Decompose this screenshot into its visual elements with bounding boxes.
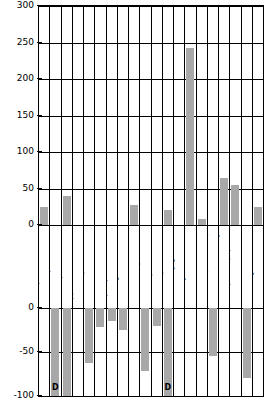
bar-positive[interactable] (40, 207, 48, 225)
category-label-band: All Categories (253, 225, 263, 308)
category-label: Transport equipment (230, 227, 231, 305)
category-label: Primary metals (185, 248, 186, 305)
y-tick-label: 150 (0, 110, 34, 119)
category-label: Instruments (242, 260, 243, 305)
bar-negative[interactable] (153, 308, 161, 326)
category-label: Electric. machinery (219, 233, 220, 305)
bar-column[interactable]: Stone-clay-glass (174, 6, 185, 396)
y-tick-label: 250 (0, 37, 34, 46)
category-label: Food products (39, 252, 40, 305)
bar-negative[interactable] (85, 308, 93, 363)
y-tick-mark (37, 351, 42, 352)
category-label-band: Electric. machinery (219, 225, 229, 308)
category-label-band: Printing (118, 225, 128, 308)
bar-column[interactable]: Leather productsD (163, 6, 174, 396)
category-label: Apparel (73, 276, 74, 305)
suppressed-data-marker: D (52, 383, 59, 392)
category-label: Tobacco products (50, 240, 51, 305)
bar-positive[interactable] (130, 205, 138, 225)
category-label: Machin. (non-elec.) (208, 233, 209, 305)
y-tick-mark (37, 151, 42, 152)
bar-column[interactable]: Printing (118, 6, 129, 396)
bar-column[interactable]: Furniture (95, 6, 106, 396)
category-label: Leather products (163, 241, 164, 305)
category-label: Lumber products (84, 241, 85, 305)
y-tick-label: 200 (0, 74, 34, 83)
bar-column[interactable]: Textile products (62, 6, 73, 396)
y-tick-mark (37, 307, 42, 308)
bar-negative[interactable] (209, 308, 217, 356)
bar-negative[interactable] (96, 308, 104, 327)
bar-column[interactable]: Chemicals (129, 6, 140, 396)
bar-column[interactable]: Fabricated metals (197, 6, 208, 396)
y-tick-label: 50 (0, 183, 34, 192)
bar-column[interactable]: Transport equipment (230, 6, 241, 396)
bar-positive[interactable] (164, 210, 172, 225)
category-label: Paper products (107, 249, 108, 305)
y-tick-mark (37, 188, 42, 189)
category-label: Chemicals (129, 266, 130, 305)
category-label: Fabricated metals (197, 238, 198, 305)
category-label-band: Tobacco products (50, 225, 60, 308)
category-label: Textile products (62, 246, 63, 305)
bar-positive[interactable] (63, 196, 71, 225)
y-tick-mark (37, 224, 42, 225)
bar-column[interactable]: Rubber-plastic (152, 6, 163, 396)
category-label-band: Machin. (non-elec.) (208, 225, 218, 308)
y-tick-mark (37, 42, 42, 43)
y-tick-mark (37, 5, 42, 6)
y-tick-label: -100 (0, 391, 34, 400)
y-tick-label: 0 (0, 303, 34, 312)
bar-positive[interactable] (220, 178, 228, 225)
category-label: Printing (118, 276, 119, 305)
category-label: Petro-coal products (140, 232, 141, 305)
bar-positive[interactable] (254, 207, 262, 225)
category-label-band: Transport equipment (230, 225, 240, 308)
bar-column[interactable]: Apparel (73, 6, 84, 396)
category-label: Furniture (95, 271, 96, 305)
bar-column[interactable]: Tobacco productsD (50, 6, 61, 396)
category-label-band: Food products (39, 225, 49, 308)
category-label: Stone-clay-glass (174, 244, 175, 305)
bar-negative[interactable] (243, 308, 251, 378)
category-label: Rubber-plastic (152, 251, 153, 305)
bar-column[interactable]: Lumber products (84, 6, 95, 396)
y-tick-label: 300 (0, 1, 34, 10)
y-tick-mark (37, 395, 42, 396)
bar-columns: Food productsTobacco productsDTextile pr… (39, 6, 263, 396)
y-tick-label: -50 (0, 347, 34, 356)
bar-negative[interactable] (63, 308, 71, 396)
category-label: All Categories (253, 253, 254, 305)
bar-column[interactable]: Machin. (non-elec.) (208, 6, 219, 396)
category-label-band: Textile products (62, 225, 72, 308)
bar-positive[interactable] (186, 48, 194, 225)
category-label-band: Stone-clay-glass (174, 225, 184, 308)
category-label-band: Primary metals (185, 225, 195, 308)
category-label-band: Paper products (107, 225, 117, 308)
y-tick-label: 0 (0, 220, 34, 229)
bar-negative[interactable] (141, 308, 149, 371)
plot-area: Food productsTobacco productsDTextile pr… (38, 5, 264, 397)
bar-column[interactable]: Food products (39, 6, 50, 396)
category-label-band: Apparel (73, 225, 83, 308)
category-label-band: Fabricated metals (197, 225, 207, 308)
category-label-band: Petro-coal products (140, 225, 150, 308)
bar-column[interactable]: Electric. machinery (219, 6, 230, 396)
bar-column[interactable]: Instruments (242, 6, 253, 396)
category-label-band: Chemicals (129, 225, 139, 308)
category-label-band: Leather products (163, 225, 173, 308)
bar-column[interactable]: All Categories (253, 6, 263, 396)
category-label-band: Instruments (242, 225, 252, 308)
y-tick-label: 100 (0, 147, 34, 156)
suppressed-data-marker: D (165, 383, 172, 392)
bar-chart: Food productsTobacco productsDTextile pr… (0, 0, 265, 403)
bar-negative[interactable] (119, 308, 127, 330)
category-label-band: Furniture (95, 225, 105, 308)
bar-column[interactable]: Primary metals (185, 6, 196, 396)
bar-column[interactable]: Paper products (107, 6, 118, 396)
y-tick-mark (37, 78, 42, 79)
category-label-band: Lumber products (84, 225, 94, 308)
bar-negative[interactable] (108, 308, 116, 321)
bar-positive[interactable] (231, 185, 239, 225)
bar-column[interactable]: Petro-coal products (140, 6, 151, 396)
